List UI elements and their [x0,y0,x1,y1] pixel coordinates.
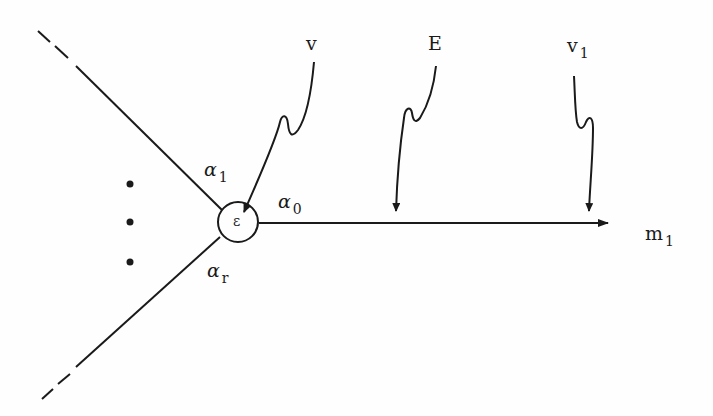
endpoint-label-m1-subscript: 1 [665,233,674,249]
wavy-label-v: v [306,34,319,53]
wavy-label-v-symbol: v [306,32,317,54]
ellipsis-dots-icon [127,181,134,266]
diagram-canvas: ε α1 α0 αr m1 v E v1 [0,0,713,416]
wavy-arrow-e [396,66,436,211]
wavy-label-v1: v1 [567,36,589,55]
diagram-graphics [0,0,713,416]
edge-label-alpha-1-symbol: α [204,158,217,180]
wavy-arrow-v1 [574,76,593,211]
edge-label-alpha-r-symbol: α [207,259,220,281]
wavy-label-v1-subscript: 1 [580,45,589,61]
endpoint-label-m1: m1 [645,224,674,243]
wavy-label-e-symbol: E [428,32,442,54]
wavy-label-e: E [428,34,444,53]
endpoint-label-m1-symbol: m [645,222,663,244]
edge-label-alpha-r-subscript: r [222,270,229,286]
edge-label-alpha-r: αr [207,261,229,280]
edge-label-alpha-1: α1 [204,160,228,179]
wavy-label-v1-symbol: v [567,34,578,56]
edge-label-alpha-0-subscript: 0 [293,201,302,217]
edge-label-alpha-1-subscript: 1 [219,169,228,185]
edge-label-alpha-0-symbol: α [278,190,291,212]
edge-label-alpha-0: α0 [278,192,302,211]
vertex-label: ε [233,214,240,228]
